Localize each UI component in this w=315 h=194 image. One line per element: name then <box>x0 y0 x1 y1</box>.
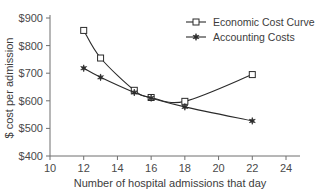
legend-label: Economic Cost Curve <box>213 16 315 28</box>
y-axis-title: $ cost per admission <box>3 38 15 139</box>
x-tick-label: 16 <box>145 162 157 174</box>
data-point-marker-square <box>249 72 255 78</box>
y-tick-label: $800 <box>19 40 43 52</box>
data-point-marker-square <box>81 27 87 33</box>
x-tick-label: 24 <box>280 162 292 174</box>
data-point-marker-square <box>193 19 199 25</box>
y-tick-label: $500 <box>19 122 43 134</box>
x-tick-label: 10 <box>44 162 56 174</box>
legend-label: Accounting Costs <box>213 31 295 43</box>
cost-per-admission-line-chart: $400$500$600$700$800$900 101214161820222… <box>0 0 315 194</box>
data-point-marker-square <box>98 55 104 61</box>
y-tick-label: $400 <box>19 150 43 162</box>
y-tick-label: $900 <box>19 12 43 24</box>
x-tick-label: 14 <box>111 162 123 174</box>
x-tick-label: 22 <box>246 162 258 174</box>
x-tick-label: 12 <box>78 162 90 174</box>
chart-figure: $400$500$600$700$800$900 101214161820222… <box>0 0 315 194</box>
x-tick-label: 18 <box>179 162 191 174</box>
x-axis-title: Number of hospital admissions that day <box>74 177 267 189</box>
x-tick-label: 20 <box>212 162 224 174</box>
y-tick-label: $700 <box>19 67 43 79</box>
y-tick-label: $600 <box>19 95 43 107</box>
